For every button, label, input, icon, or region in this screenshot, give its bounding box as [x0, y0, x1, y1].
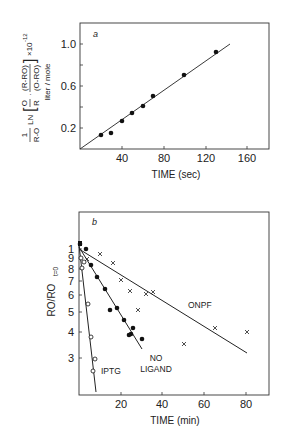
panel-b-xtick-2: 60 — [198, 398, 210, 410]
svg-text:liter / mole: liter / mole — [43, 63, 52, 100]
onpf-fit-line — [79, 249, 247, 353]
no-ligand-label-line2: LIGAND — [140, 364, 172, 374]
svg-text:R: R — [32, 100, 41, 106]
no-ligand-label-line1: NO — [150, 353, 163, 363]
panel-b-ytick-6: 6 — [68, 289, 74, 301]
svg-text:t=0: t=0 — [52, 266, 59, 276]
svg-text:O: O — [20, 100, 29, 106]
panel-a-ytick-0: 0.2 — [61, 122, 76, 134]
iptg-label: IPTG — [101, 366, 121, 376]
panel-b-xlabel: TIME (min) — [150, 415, 199, 426]
svg-text:1: 1 — [20, 132, 29, 137]
panel-a-xtick-2: 120 — [197, 152, 215, 164]
panel-a-xlabel: TIME (sec) — [152, 169, 201, 180]
svg-text:[: [ — [21, 107, 38, 112]
panel-a-ylabel: 1 R-O LN [ O R · (R-RO) (O-RO) ] ×10 -12… — [20, 33, 52, 143]
svg-text:(R-RO): (R-RO) — [20, 65, 29, 91]
panel-b-xtick-1: 40 — [156, 398, 168, 410]
panel-b-ytick-8: 8 — [68, 263, 74, 275]
panel-b: b 1 9 8 7 6 5 4 3 20 40 60 80 TI — [46, 212, 269, 426]
onpf-points — [85, 252, 249, 346]
panel-a-frame — [80, 23, 269, 149]
svg-text:×10: ×10 — [25, 42, 34, 56]
panel-a-xtick-1: 80 — [158, 152, 170, 164]
svg-text:]: ] — [21, 59, 38, 63]
panel-a-ytick-1: 0.6 — [61, 80, 76, 92]
iptg-points — [79, 256, 97, 373]
figure-canvas: a 0.2 0.6 1.0 40 80 120 160 TIME (sec) — [0, 0, 283, 426]
svg-text:(O-RO): (O-RO) — [32, 65, 41, 92]
panel-a-xtick-3: 160 — [238, 152, 256, 164]
panel-b-xticks — [121, 392, 246, 395]
panel-a: a 0.2 0.6 1.0 40 80 120 160 TIME (sec) — [20, 23, 269, 180]
svg-text:LN: LN — [26, 115, 35, 125]
onpf-label: ONPF — [188, 300, 212, 310]
panel-a-points — [99, 50, 219, 138]
panel-b-ylabel: RO/RO t=0 — [46, 266, 59, 316]
svg-text:·: · — [26, 93, 35, 96]
svg-text:-12: -12 — [22, 33, 28, 42]
panel-a-ytick-2: 1.0 — [61, 38, 76, 50]
panel-b-ytick-5: 5 — [68, 306, 74, 318]
svg-text:R-O: R-O — [32, 128, 41, 143]
panel-b-ytick-4: 4 — [68, 326, 74, 338]
panel-b-xtick-3: 80 — [240, 398, 252, 410]
panel-b-ytick-3: 3 — [68, 352, 74, 364]
no-ligand-points — [78, 242, 145, 342]
panel-b-ytick-7: 7 — [68, 275, 74, 287]
panel-b-letter: b — [92, 217, 97, 227]
panel-b-xtick-0: 20 — [115, 398, 127, 410]
panel-a-letter: a — [93, 29, 98, 39]
svg-text:RO/RO: RO/RO — [46, 283, 57, 316]
panel-a-xtick-0: 40 — [116, 152, 128, 164]
